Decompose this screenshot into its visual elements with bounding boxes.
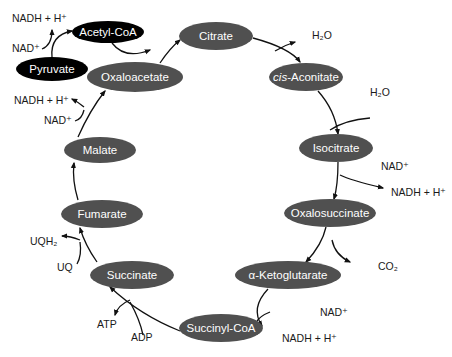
pyruvate-label: Pyruvate — [29, 63, 74, 75]
succinyl-coa-label: Succinyl-CoA — [186, 322, 255, 334]
malate-label: Malate — [83, 144, 118, 156]
node-fumarate: Fumarate — [61, 200, 143, 228]
node-succinate: Succinate — [90, 261, 174, 289]
aconitate-suffix: -Aconitate — [287, 71, 339, 83]
isocitrate-nadh-label: NADH + H⁺ — [391, 186, 446, 198]
node-oxalosuccinate: Oxalosuccinate — [284, 199, 376, 227]
acetyl-coa-label: Acetyl-CoA — [79, 26, 137, 38]
succinate-uq-label: UQ — [57, 261, 73, 273]
isocitrate-nad-label: NAD⁺ — [381, 160, 409, 172]
oxaloacetate-label: Oxaloacetate — [101, 71, 169, 83]
succinyl-atp-label: ATP — [97, 318, 117, 330]
fumarate-label: Fumarate — [77, 208, 126, 220]
node-cis-aconitate: cis-Aconitate — [269, 63, 343, 91]
pyruvate-nadh-label: NADH + H⁺ — [12, 12, 67, 24]
cis-aconitate-label: cis-Aconitate — [273, 71, 339, 83]
alpha-ketoglutarate-label: α-Ketoglutarate — [249, 269, 328, 281]
node-pyruvate: Pyruvate — [16, 57, 88, 81]
node-alpha-ketoglutarate: α-Ketoglutarate — [235, 261, 341, 289]
oxalosuccinate-co2-label: CO₂ — [378, 260, 398, 272]
node-succinyl-coa: Succinyl-CoA — [179, 314, 263, 342]
succinate-uqh2-label: UQH₂ — [30, 235, 57, 247]
succinyl-adp-label: ADP — [131, 331, 153, 343]
node-oxaloacetate: Oxaloacetate — [87, 62, 183, 92]
node-malate: Malate — [64, 137, 136, 163]
aconitate-h2o-label: H₂O — [370, 86, 390, 98]
node-citrate: Citrate — [179, 22, 253, 50]
akg-nadh-label: NADH + H⁺ — [282, 332, 337, 344]
akg-nad-label: NAD⁺ — [320, 306, 348, 318]
node-acetyl-coa: Acetyl-CoA — [72, 21, 144, 43]
node-isocitrate: Isocitrate — [299, 134, 373, 162]
oxalosuccinate-label: Oxalosuccinate — [291, 207, 370, 219]
succinate-label: Succinate — [107, 269, 158, 281]
malate-nadh-label: NADH + H⁺ — [14, 94, 69, 106]
cis-prefix: cis — [273, 71, 287, 83]
citric-acid-cycle-diagram: Acetyl-CoA Pyruvate Citrate cis-Aconitat… — [0, 0, 452, 357]
pyruvate-nad-label: NAD⁺ — [12, 42, 40, 54]
citrate-h2o-label: H₂O — [312, 29, 332, 41]
citrate-label: Citrate — [199, 30, 233, 42]
isocitrate-label: Isocitrate — [313, 142, 360, 154]
malate-nad-label: NAD⁺ — [44, 114, 72, 126]
